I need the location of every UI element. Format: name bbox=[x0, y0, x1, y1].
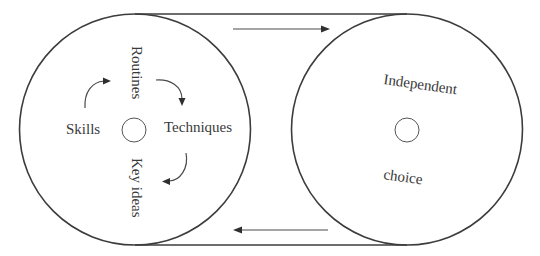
left-center-circle bbox=[122, 118, 146, 142]
arrowhead-left-icon bbox=[233, 227, 242, 234]
bottom-arrow bbox=[233, 227, 328, 234]
arrow-skills-to-routines bbox=[85, 78, 111, 109]
label-techniques: Techniques bbox=[164, 119, 232, 135]
label-skills: Skills bbox=[66, 121, 100, 137]
arrowhead-icon bbox=[162, 178, 170, 185]
right-center-circle bbox=[395, 118, 419, 142]
label-choice: choice bbox=[383, 166, 424, 187]
right-circle bbox=[292, 14, 523, 245]
arrowhead-icon bbox=[179, 98, 186, 106]
label-independent: Independent bbox=[383, 71, 459, 97]
arrowhead-icon bbox=[103, 78, 111, 85]
label-routines: Routines bbox=[129, 46, 145, 99]
label-key-ideas: Key ideas bbox=[129, 158, 145, 218]
arrow-routines-to-techniques bbox=[156, 80, 186, 106]
learning-cycle-diagram: Routines Techniques Key ideas Skills Ind… bbox=[0, 0, 540, 256]
arrowhead-right-icon bbox=[321, 26, 330, 33]
top-arrow bbox=[233, 26, 330, 33]
arrow-techniques-to-key-ideas bbox=[162, 153, 187, 185]
